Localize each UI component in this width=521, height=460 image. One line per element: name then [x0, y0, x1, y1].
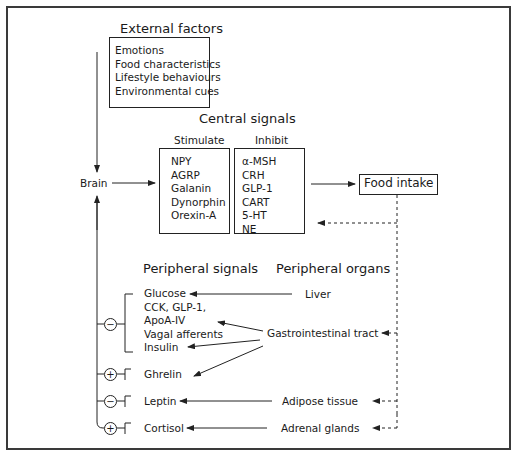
minus-sign-icon: −	[104, 318, 117, 331]
external-factors-title: External factors	[120, 22, 223, 36]
peripheral-signal-item: CCK, GLP-1,	[144, 301, 223, 315]
stimulate-item: Orexin-A	[171, 209, 226, 223]
peripheral-signal-leptin: Leptin	[144, 395, 176, 409]
stimulate-item: AGRP	[171, 169, 226, 183]
inhibit-item: 5-HT	[242, 209, 276, 223]
peripheral-signals-title: Peripheral signals	[143, 262, 258, 276]
organ-liver: Liver	[305, 288, 331, 302]
peripheral-signal-item: Vagal afferents	[144, 328, 223, 342]
central-signals-title: Central signals	[199, 112, 296, 126]
organ-adipose-tissue: Adipose tissue	[282, 395, 358, 409]
stimulate-item: Dynorphin	[171, 196, 226, 210]
peripheral-signal-cortisol: Cortisol	[144, 422, 184, 436]
stimulate-list: NPY AGRP Galanin Dynorphin Orexin-A	[171, 155, 226, 223]
organ-adrenal-glands: Adrenal glands	[281, 422, 359, 436]
external-factor-item: Emotions	[115, 44, 221, 58]
inhibit-item: GLP-1	[242, 182, 276, 196]
plus-sign-icon: +	[104, 368, 117, 381]
inhibit-item: α-MSH	[242, 155, 276, 169]
external-factor-item: Lifestyle behaviours	[115, 71, 221, 85]
stimulate-item: Galanin	[171, 182, 226, 196]
minus-sign-icon: −	[104, 395, 117, 408]
inhibit-item: NE	[242, 223, 276, 237]
stimulate-item: NPY	[171, 155, 226, 169]
food-intake-label: Food intake	[364, 177, 434, 191]
stimulate-label: Stimulate	[174, 134, 225, 148]
external-factor-item: Environmental cues	[115, 85, 221, 99]
peripheral-signal-item: Glucose	[144, 287, 223, 301]
inhibit-list: α-MSH CRH GLP-1 CART 5-HT NE	[242, 155, 276, 237]
inhibit-item: CRH	[242, 169, 276, 183]
peripheral-organs-title: Peripheral organs	[276, 262, 390, 276]
inhibit-label: Inhibit	[255, 134, 288, 148]
peripheral-signal-item: ApoA-IV	[144, 314, 223, 328]
organ-gastrointestinal-tract: Gastrointestinal tract	[267, 327, 378, 341]
peripheral-signal-item: Insulin	[144, 341, 223, 355]
brain-label: Brain	[80, 177, 109, 191]
plus-sign-icon: +	[104, 422, 117, 435]
peripheral-signal-group-inhibitory: Glucose CCK, GLP-1, ApoA-IV Vagal affere…	[144, 287, 223, 355]
external-factors-list: Emotions Food characteristics Lifestyle …	[115, 44, 221, 98]
external-factor-item: Food characteristics	[115, 58, 221, 72]
peripheral-signal-ghrelin: Ghrelin	[144, 368, 182, 382]
inhibit-item: CART	[242, 196, 276, 210]
